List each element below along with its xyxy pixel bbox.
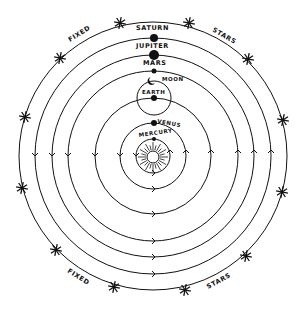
sun-ray xyxy=(160,159,165,160)
label-jupiter: JUPITER xyxy=(135,42,169,50)
diagram-canvas: SATURN JUPITER MARS MOON EARTH VENUS MER… xyxy=(0,0,307,311)
label-saturn: SATURN xyxy=(136,24,169,32)
sun-ray xyxy=(145,162,149,166)
sun-icon xyxy=(147,151,159,163)
label-earth: EARTH xyxy=(142,89,165,95)
label-venus: VENUS xyxy=(157,118,182,128)
sun-ray xyxy=(150,145,151,150)
star-icon xyxy=(19,111,31,123)
planet-mercury xyxy=(152,137,156,141)
solar-system-diagram: SATURN JUPITER MARS MOON EARTH VENUS MER… xyxy=(0,0,307,311)
sun-ray xyxy=(160,154,165,155)
label-mercury: MERCURY xyxy=(138,127,173,138)
star-icon xyxy=(242,53,254,65)
star-icon xyxy=(50,244,62,256)
sun-ray xyxy=(158,149,162,153)
sun-ray xyxy=(141,154,146,155)
sun-ray xyxy=(155,145,156,150)
sun-ray xyxy=(145,149,149,153)
label-moon: MOON xyxy=(162,76,184,82)
planet-earth xyxy=(151,95,157,101)
sun-ray xyxy=(150,164,151,169)
sun-ray xyxy=(158,162,162,166)
star-icon xyxy=(276,186,288,198)
star-icon xyxy=(54,52,66,64)
planet-mars xyxy=(152,69,157,74)
sun-ray xyxy=(155,164,156,169)
label-fixed-bottom: FIXED xyxy=(66,267,91,287)
label-stars-bottom: STARS xyxy=(205,271,232,290)
sun-ray xyxy=(141,159,146,160)
label-fixed-top: FIXED xyxy=(67,24,92,44)
label-mars: MARS xyxy=(143,59,167,67)
planet-saturn xyxy=(150,34,158,42)
